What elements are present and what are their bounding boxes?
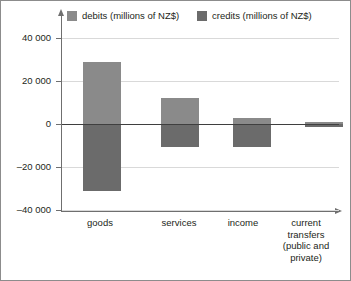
- bar-credits: [233, 124, 271, 147]
- y-axis-label: 0: [46, 119, 51, 129]
- x-axis-line: [61, 211, 336, 212]
- y-axis-label: 40 000: [22, 33, 51, 43]
- bar-credits: [83, 124, 121, 191]
- legend-swatch-debits-icon: [67, 11, 77, 21]
- zero-baseline: [62, 124, 339, 125]
- bar-credits: [161, 124, 199, 147]
- bar-debits: [161, 98, 199, 124]
- gridline: [62, 210, 339, 211]
- legend-item-credits: credits (millions of NZ$): [197, 10, 312, 21]
- plot-area: [62, 33, 339, 211]
- legend-label-credits: credits (millions of NZ$): [212, 10, 312, 21]
- chart-figure: debits (millions of NZ$) credits (millio…: [0, 0, 351, 281]
- y-axis-label: 20 000: [22, 76, 51, 86]
- chart-legend: debits (millions of NZ$) credits (millio…: [1, 9, 351, 27]
- x-axis-category-label: goods: [62, 217, 138, 229]
- legend-item-debits: debits (millions of NZ$): [67, 10, 179, 21]
- gridline: [62, 38, 339, 39]
- bar-debits: [83, 62, 121, 124]
- y-axis-label: –40 000: [17, 205, 51, 215]
- x-axis-category-label: current transfers (public and private): [267, 217, 345, 263]
- legend-swatch-credits-icon: [197, 11, 207, 21]
- y-axis-arrow-icon: [58, 9, 64, 16]
- y-axis-label: –20 000: [17, 162, 51, 172]
- legend-label-debits: debits (millions of NZ$): [82, 10, 179, 21]
